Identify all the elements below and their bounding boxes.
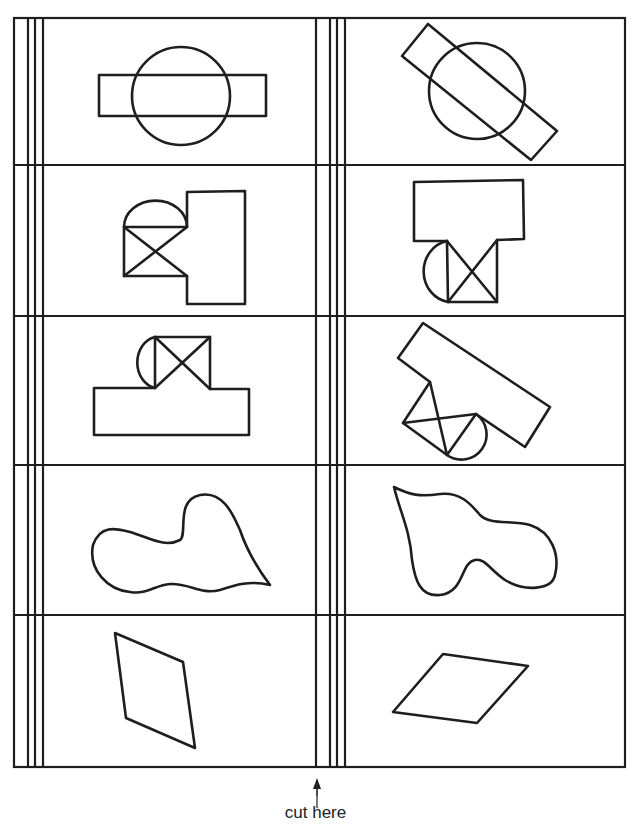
row-5-right-shape xyxy=(393,654,528,723)
grid-frame xyxy=(14,18,625,767)
row-1-left-shape xyxy=(99,47,266,145)
left-fold-strip xyxy=(28,18,43,767)
row-3-right-shape xyxy=(398,323,550,460)
cut-here-caption: cut here xyxy=(0,803,635,823)
row-4-left-shape xyxy=(92,494,270,592)
row-2-right-shape xyxy=(414,180,524,302)
row-4-right-shape xyxy=(394,487,556,595)
worksheet-grid xyxy=(0,0,635,837)
center-cut-strip xyxy=(316,18,345,767)
row-1-right-shape xyxy=(402,24,557,160)
worksheet: cut here xyxy=(0,0,635,837)
row-2-left-shape xyxy=(124,191,245,304)
row-3-left-shape xyxy=(94,337,249,435)
cut-here-label: cut here xyxy=(285,803,346,822)
row-5-left-shape xyxy=(115,633,195,748)
